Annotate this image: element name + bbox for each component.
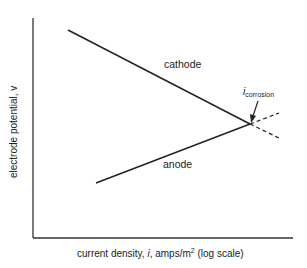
x-axis-label: current density, i, amps/m2 (log scale): [77, 247, 244, 259]
icorr-arrow-shaft: [253, 101, 258, 116]
cathode-label: cathode: [164, 58, 202, 70]
y-axis-label: electrode potential, v: [8, 86, 19, 178]
chart-canvas: cathode anode icorrosion current density…: [0, 0, 307, 268]
cathode-extension-dashed: [250, 124, 279, 138]
icorr-label: icorrosion: [243, 85, 274, 98]
anode-line: [96, 124, 250, 183]
anode-label: anode: [163, 158, 192, 170]
anode-extension-dashed: [250, 113, 279, 124]
evans-diagram: cathode anode icorrosion current density…: [0, 0, 307, 268]
cathode-line: [68, 30, 250, 124]
arrow-head-icon: [250, 114, 256, 123]
